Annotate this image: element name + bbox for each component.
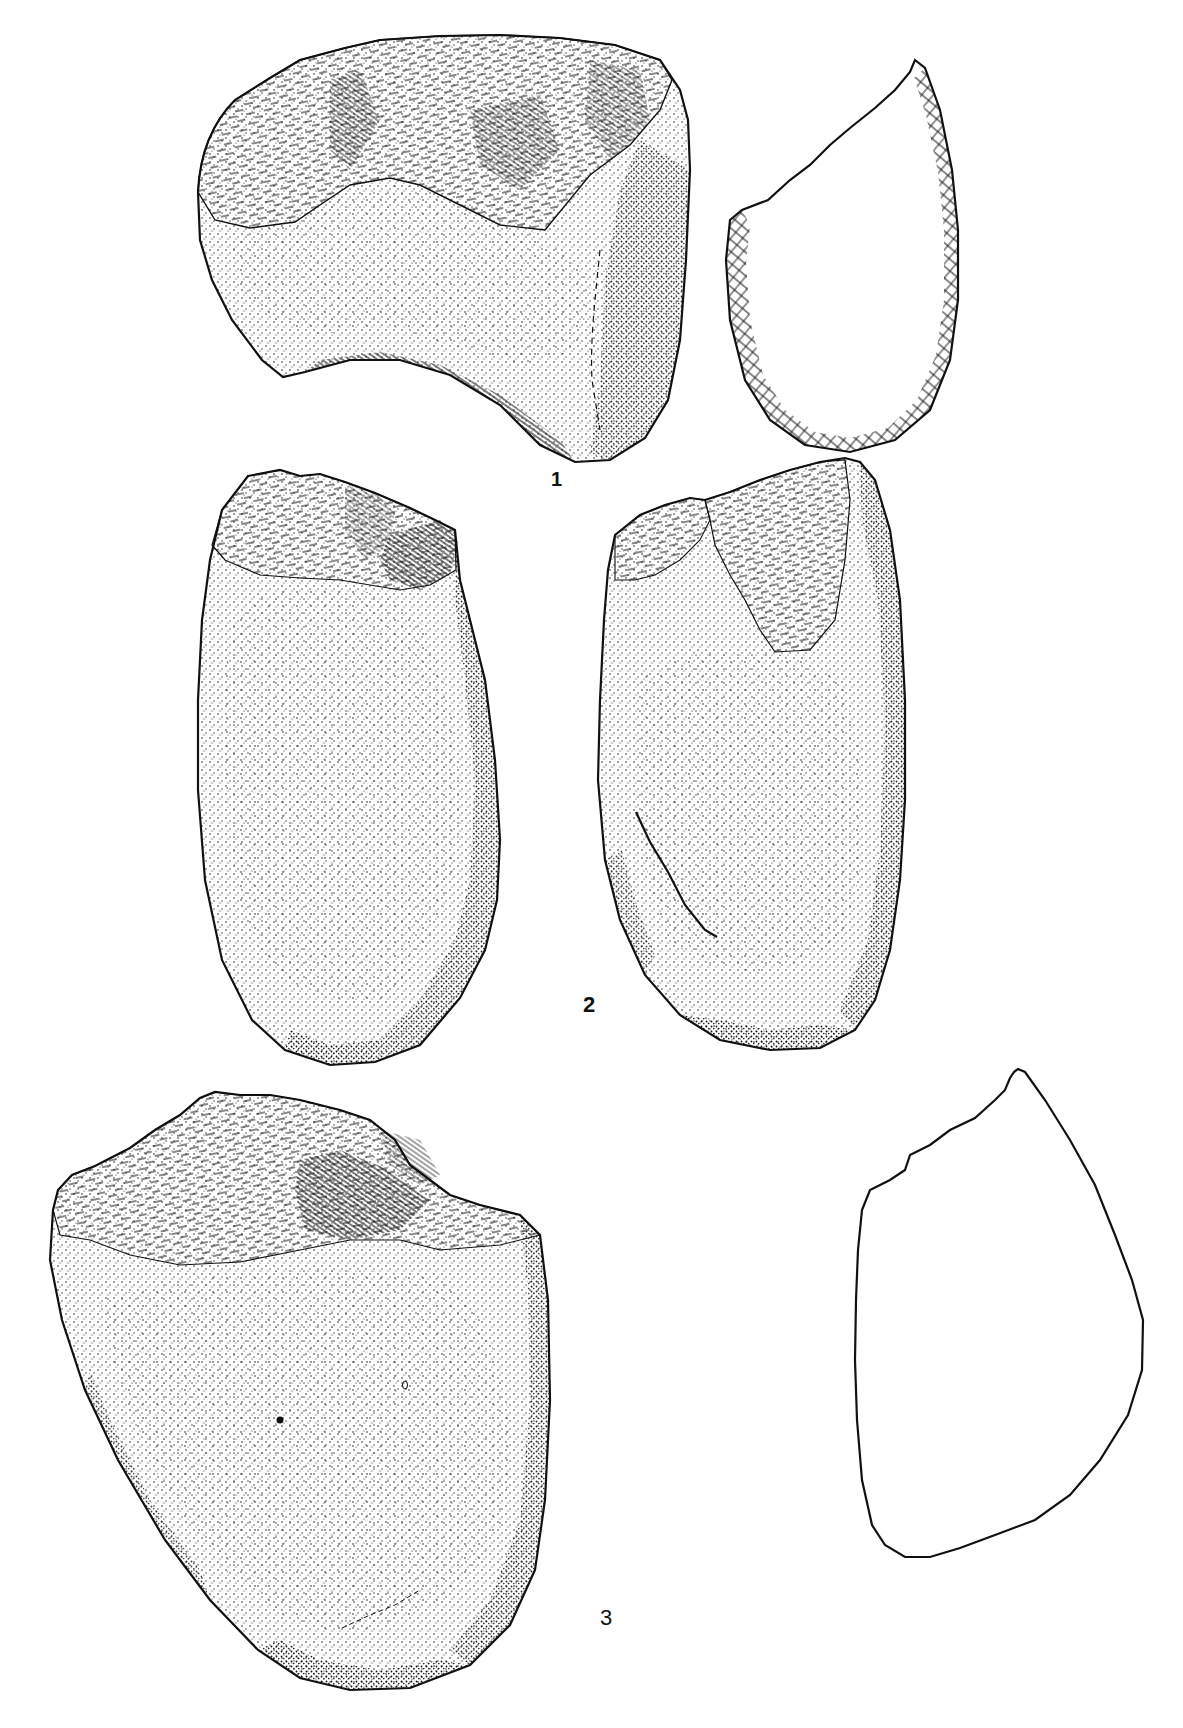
figure-2-label: 2 xyxy=(583,992,595,1017)
figure-3-label: 3 xyxy=(600,1605,612,1630)
figure-2-face-a xyxy=(198,470,500,1065)
figure-1-front-view xyxy=(198,35,690,462)
illustration-plate: 1 2 xyxy=(0,0,1183,1728)
figure-3-front-view xyxy=(50,1092,550,1690)
figure-1-label: 1 xyxy=(551,468,562,490)
figure-1-cross-section xyxy=(726,60,958,452)
figure-2-face-b xyxy=(598,458,905,1050)
figure-3-cross-section xyxy=(855,1069,1143,1557)
